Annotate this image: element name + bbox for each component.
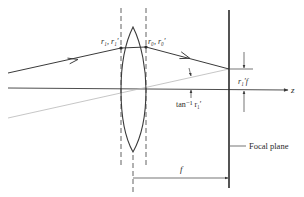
focal-plane-label: Focal plane (249, 141, 289, 151)
focal-offset-label: r₁′f (238, 77, 250, 86)
output-ray-label: r₀, r₀′ (148, 37, 166, 46)
axis-label: z (290, 85, 295, 95)
focal-length-label: f (180, 164, 184, 174)
angle-label: tan⁻¹ r₁′ (176, 100, 202, 109)
input-point (119, 46, 122, 49)
optical-axis (8, 88, 288, 90)
reference-ray (8, 69, 229, 118)
input-ray-label: r₁, r₁′ (101, 37, 119, 46)
incoming-ray-arrow-icon (67, 56, 78, 64)
lens-ray (121, 47, 146, 48)
lens-ray-diagram: z r₁, r₁′ r₀, r₀′ Focal plane r₁′f tan⁻¹… (0, 0, 304, 197)
incoming-ray (8, 48, 121, 73)
angle-arrow-top (189, 68, 191, 76)
lens (121, 27, 146, 152)
